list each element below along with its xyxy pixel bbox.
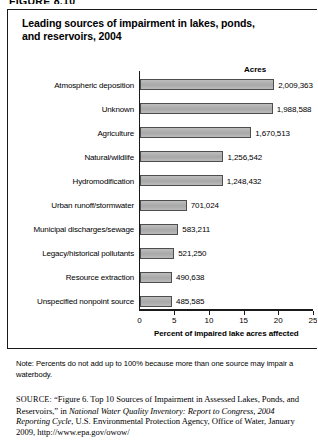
bar-value-label: 1,248,432: [227, 176, 262, 187]
bar-category-label: Hydromodification: [6, 176, 134, 187]
bar: [140, 248, 175, 259]
bar-category-label: Unspecified nonpoint source: [6, 296, 134, 307]
x-axis-tick-label: 20: [263, 316, 293, 325]
source-prefix: SOURCE:: [16, 395, 52, 404]
x-axis-line: [139, 309, 314, 310]
bar-value-label: 490,638: [176, 272, 204, 283]
x-axis-tick: [174, 311, 175, 315]
bar: [140, 127, 252, 138]
bar-category-label: Natural/wildlife: [6, 152, 134, 163]
x-axis-tick-label: 10: [194, 316, 224, 325]
x-axis-title: Percent of impaired lake acres affected: [115, 329, 318, 338]
bar-category-label: Urban runoff/stormwater: [6, 200, 134, 211]
bar-category-label: Unknown: [6, 104, 134, 115]
bar: [140, 200, 187, 211]
bar: [140, 79, 275, 90]
bar-value-label: 1,256,542: [227, 152, 262, 163]
bar-value-label: 1,670,513: [255, 128, 290, 139]
chart-note: Note: Percents do not add up to 100% bec…: [16, 359, 308, 380]
bar-value-label: 1,988,588: [277, 104, 312, 115]
bar-category-label: Atmospheric deposition: [6, 80, 134, 91]
bar-value-label: 2,009,363: [278, 80, 313, 91]
bar: [140, 103, 273, 114]
y-axis-line: [139, 71, 140, 309]
bar: [140, 175, 223, 186]
bar-value-label: 701,024: [191, 200, 219, 211]
bar-category-label: Municipal discharges/sewage: [6, 224, 134, 235]
bar-category-label: Agriculture: [6, 128, 134, 139]
bar-value-label: 485,585: [176, 296, 204, 307]
bar-value-label: 521,250: [178, 248, 206, 259]
bar-value-label: 583,211: [182, 224, 210, 235]
x-axis-tick: [313, 311, 314, 315]
bar: [140, 224, 179, 235]
bar: [140, 296, 173, 307]
x-axis-tick-label: 0: [125, 316, 155, 325]
x-axis-tick-label: 25: [298, 316, 317, 325]
x-axis-tick: [244, 311, 245, 315]
bar-category-label: Legacy/historical pollutants: [6, 248, 134, 259]
acres-column-header: Acres: [244, 65, 266, 74]
x-axis-tick-label: 5: [159, 316, 189, 325]
bar-category-label: Resource extraction: [6, 272, 134, 283]
bar: [140, 272, 173, 283]
x-axis-tick: [278, 311, 279, 315]
x-axis-tick: [209, 311, 210, 315]
bar: [140, 151, 224, 162]
chart-source: SOURCE: “Figure 6. Top 10 Sources of Imp…: [16, 394, 310, 437]
x-axis-tick-label: 15: [229, 316, 259, 325]
